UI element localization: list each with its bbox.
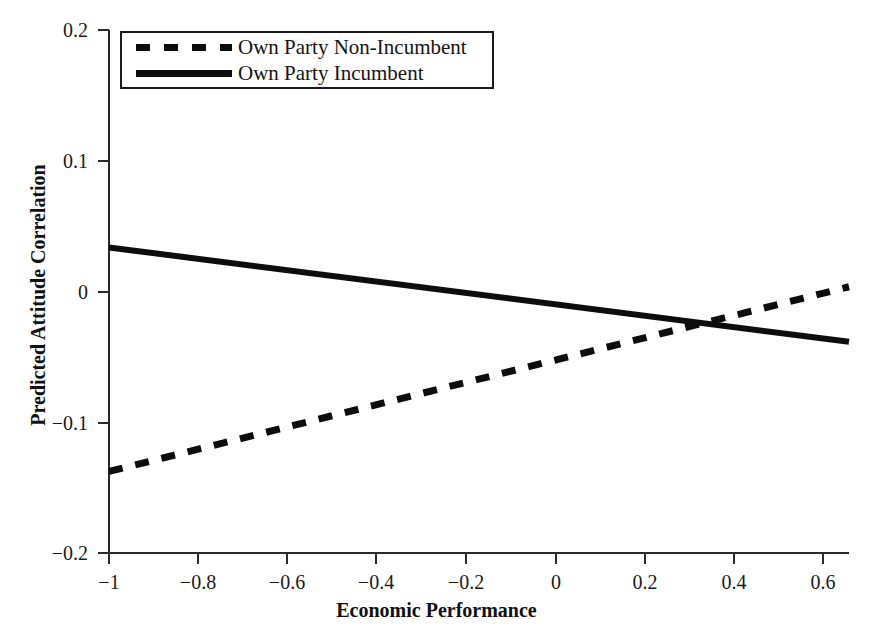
legend: Own Party Non-Incumbent Own Party Incumb… bbox=[120, 31, 494, 89]
legend-label-1: Own Party Incumbent bbox=[238, 61, 423, 86]
x-tick-label-4: −0.2 bbox=[448, 572, 484, 592]
chart-figure: 0.2 0.1 0 −0.1 −0.2 −1 −0.8 −0.6 −0.4 −0… bbox=[0, 0, 873, 640]
series-line-own-party-incumbent bbox=[109, 247, 849, 341]
solid-line-swatch-icon bbox=[136, 65, 232, 83]
x-tick-label-3: −0.4 bbox=[358, 572, 394, 592]
series-line-own-party-non-incumbent bbox=[109, 287, 849, 472]
plot-canvas bbox=[0, 0, 873, 640]
x-tick-label-0: −1 bbox=[98, 572, 119, 592]
x-tick-marks bbox=[109, 553, 823, 564]
x-tick-label-2: −0.6 bbox=[269, 572, 305, 592]
y-tick-marks bbox=[98, 30, 109, 553]
x-axis-title: Economic Performance bbox=[0, 600, 873, 620]
y-axis-title: Predicted Attitude Correlation bbox=[28, 15, 56, 575]
x-tick-label-8: 0.6 bbox=[811, 572, 836, 592]
x-tick-label-5: 0 bbox=[551, 572, 561, 592]
dashed-line-swatch-icon bbox=[136, 39, 232, 57]
x-tick-label-7: 0.4 bbox=[722, 572, 747, 592]
x-tick-label-6: 0.2 bbox=[633, 572, 658, 592]
legend-label-0: Own Party Non-Incumbent bbox=[238, 35, 467, 60]
legend-entry-1: Own Party Incumbent bbox=[122, 59, 492, 88]
legend-entry-0: Own Party Non-Incumbent bbox=[122, 33, 492, 62]
x-tick-label-1: −0.8 bbox=[180, 572, 216, 592]
